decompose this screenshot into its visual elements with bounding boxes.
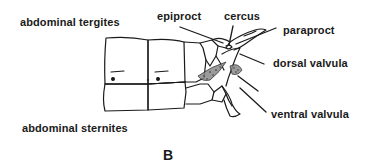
sternite-segment-1 <box>104 84 149 111</box>
panel-letter: B <box>163 147 173 163</box>
stippled-membrane-1 <box>198 62 226 81</box>
label-abdominal-sternites: abdominal sternites <box>22 122 128 134</box>
tergite-segment-1 <box>105 37 148 84</box>
leader-cercus <box>229 26 233 45</box>
stippled-membrane-2 <box>230 65 242 75</box>
label-ventral-valvula: ventral valvula <box>271 108 349 120</box>
sternite-segment-3 <box>186 84 214 104</box>
label-paraproct: paraproct <box>283 24 335 36</box>
leader-epiproct <box>180 27 223 43</box>
leader-ventral-valvula-1 <box>240 88 266 112</box>
sternite-segment-2 <box>148 82 186 110</box>
label-dorsal-valvula: dorsal valvula <box>273 57 348 69</box>
label-cercus: cercus <box>224 10 260 22</box>
tergite-segment-2 <box>148 39 185 84</box>
leader-dorsal-valvula <box>240 54 264 64</box>
leader-paraproct <box>236 28 276 44</box>
anatomy-figure: abdominal tergites epiproct cercus parap… <box>0 0 369 168</box>
label-epiproct: epiproct <box>157 10 201 22</box>
label-abdominal-tergites: abdominal tergites <box>20 16 120 28</box>
